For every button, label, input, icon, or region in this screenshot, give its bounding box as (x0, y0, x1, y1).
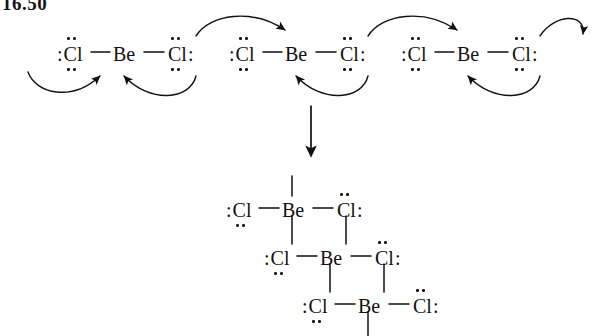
reactant-2-cl-right: Cl: (339, 44, 365, 64)
product-1-cl-left: :Cl (226, 200, 252, 220)
figure-number-label: 16.50 (2, 0, 47, 15)
atom-label-be: Be (113, 44, 135, 64)
electron-arrow-lower-2 (124, 76, 196, 96)
product-2-cl-left: :Cl (264, 248, 290, 268)
atom-label-cl: Cl (337, 200, 356, 220)
atom-label-be: Be (457, 44, 479, 64)
reactant-3-cl-left: :Cl (401, 44, 427, 64)
reactant-1-cl-left: :Cl (57, 44, 83, 64)
reactant-2-cl-left: :Cl (229, 44, 255, 64)
electron-arrow-lower-3 (296, 76, 368, 96)
lone-pair-dots-icon (514, 68, 528, 72)
lone-pair-colon-icon: : (188, 43, 194, 65)
atom-label-cl: Cl (408, 44, 427, 64)
atom-label-cl: Cl (512, 44, 531, 64)
reactant-1-cl-right: Cl: (167, 44, 193, 64)
lone-pair-dots-icon (66, 68, 80, 72)
lone-pair-dots-icon (238, 68, 252, 72)
lone-pair-dots-icon (170, 37, 184, 41)
atom-label-cl: Cl (64, 44, 83, 64)
atom-label-cl: Cl (340, 44, 359, 64)
product-2-cl-right: Cl: (374, 248, 400, 268)
atom-label-be: Be (358, 296, 380, 316)
atom-label-cl: Cl (168, 44, 187, 64)
atom-label-cl: Cl (271, 248, 290, 268)
product-1-cl-right: Cl: (336, 200, 362, 220)
atom-label-be: Be (285, 44, 307, 64)
lone-pair-dots-icon (66, 37, 80, 41)
electron-arrow-lower-1 (28, 72, 100, 92)
product-3-cl-right: Cl: (412, 296, 438, 316)
reactant-1-be: Be (113, 44, 135, 64)
atom-label-cl: Cl (413, 296, 432, 316)
lone-pair-colon-icon: : (433, 295, 439, 317)
electron-arrow-upper-3 (540, 18, 583, 36)
product-3-cl-left: :Cl (302, 296, 328, 316)
lone-pair-dots-icon (342, 37, 356, 41)
lone-pair-dots-icon (235, 224, 249, 228)
lone-pair-dots-icon (238, 37, 252, 41)
lone-pair-dots-icon (410, 68, 424, 72)
product-3-be: Be (358, 296, 380, 316)
atom-label-cl: Cl (309, 296, 328, 316)
electron-arrow-upper-1 (196, 16, 285, 36)
figure-canvas: 16.50 :Cl Be Cl: :Cl Be Cl: :Cl Be Cl: :… (0, 0, 592, 336)
electron-arrow-upper-2 (368, 16, 457, 36)
lone-pair-colon-icon: : (532, 43, 538, 65)
lone-pair-dots-icon (339, 193, 353, 197)
product-1-be: Be (282, 200, 304, 220)
reactant-3-cl-right: Cl: (511, 44, 537, 64)
lone-pair-colon-icon: : (357, 199, 363, 221)
atom-label-cl: Cl (236, 44, 255, 64)
atom-label-be: Be (320, 248, 342, 268)
reactant-2-be: Be (285, 44, 307, 64)
atom-label-cl: Cl (233, 200, 252, 220)
electron-arrow-lower-4 (468, 76, 540, 96)
lone-pair-colon-icon: : (360, 43, 366, 65)
product-2-be: Be (320, 248, 342, 268)
lone-pair-dots-icon (273, 272, 287, 276)
atom-label-cl: Cl (375, 248, 394, 268)
lone-pair-dots-icon (415, 289, 429, 293)
lone-pair-dots-icon (311, 320, 325, 324)
reactant-3-be: Be (457, 44, 479, 64)
atom-label-be: Be (282, 200, 304, 220)
lone-pair-colon-icon: : (395, 247, 401, 269)
lone-pair-dots-icon (170, 68, 184, 72)
lone-pair-dots-icon (514, 37, 528, 41)
lone-pair-dots-icon (377, 241, 391, 245)
lone-pair-dots-icon (342, 68, 356, 72)
lone-pair-dots-icon (410, 37, 424, 41)
